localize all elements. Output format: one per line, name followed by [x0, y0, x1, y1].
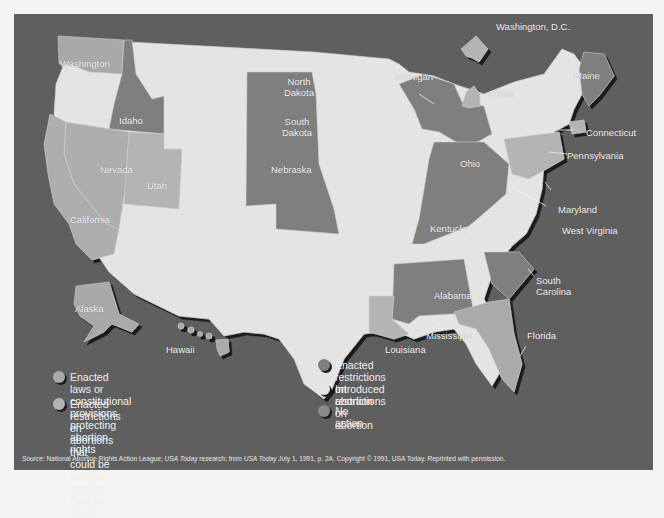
- label-florida: Florida: [527, 330, 556, 341]
- swatch-restrictions-overturn-roe: [53, 398, 65, 410]
- label-south-carolina: South Carolina: [536, 275, 571, 297]
- label-nebraska: Nebraska: [271, 164, 312, 175]
- label-mississippi: Mississippi: [426, 330, 472, 341]
- swatch-no-action: [318, 405, 330, 417]
- label-kentucky: Kentucky: [430, 223, 469, 234]
- state-washington-dc: [461, 36, 488, 62]
- label-louisiana: Louisiana: [385, 344, 426, 355]
- top-caption-fragment: [0, 0, 664, 14]
- label-idaho: Idaho: [119, 115, 143, 126]
- label-alabama: Alabama: [434, 290, 472, 301]
- state-connecticut: [569, 120, 586, 134]
- label-connecticut: Connecticut: [586, 127, 636, 138]
- label-utah: Utah: [147, 180, 167, 191]
- swatch-protecting-rights: [53, 371, 65, 383]
- label-hawaii: Hawaii: [166, 344, 195, 355]
- label-south-dakota: South Dakota: [273, 116, 321, 138]
- legend-item-no-action: No action: [318, 405, 363, 429]
- label-alaska: Alaska: [75, 303, 104, 314]
- label-ohio: Ohio: [460, 158, 480, 169]
- label-maryland: Maryland: [558, 204, 597, 215]
- map-panel: Washington Idaho Nevada Utah California …: [14, 14, 653, 470]
- label-maine: Maine: [574, 70, 600, 81]
- label-pennsylvania: Pennsylvania: [567, 150, 624, 161]
- label-nevada: Nevada: [100, 164, 133, 175]
- swatch-introduced-restrictions: [318, 383, 330, 395]
- state-pennsylvania: [504, 132, 564, 179]
- swatch-enacted-restrictions: [318, 359, 330, 371]
- label-washington: Washington: [60, 58, 110, 69]
- label-west-virginia: West Virginia: [562, 225, 618, 236]
- label-california: California: [70, 214, 110, 225]
- source-citation: Source: National Abortion Rights Action …: [22, 455, 505, 462]
- label-guam: Guam: [488, 88, 514, 99]
- state-south-carolina: [484, 252, 534, 299]
- label-washington-dc: Washington, D.C.: [496, 21, 570, 32]
- label-michigan: Michigan: [395, 71, 433, 82]
- label-north-dakota: North Dakota: [275, 76, 323, 98]
